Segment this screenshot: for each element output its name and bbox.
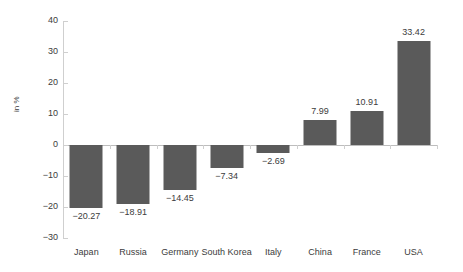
x-category-label: Germany xyxy=(161,247,198,257)
bar-group: −20.27Japan xyxy=(63,0,110,272)
y-axis-title: in % xyxy=(13,96,21,112)
bar-group: −14.45Germany xyxy=(157,0,204,272)
x-category-label: Italy xyxy=(265,247,282,257)
y-tick-label: −20 xyxy=(24,202,58,211)
bar-group: −2.69Italy xyxy=(250,0,297,272)
bar-value-label: −14.45 xyxy=(166,194,194,203)
y-tick-label: 40 xyxy=(24,16,58,25)
bar-value-label: 10.91 xyxy=(356,98,379,107)
bar-group: 33.42USA xyxy=(390,0,437,272)
bar-group: −7.34South Korea xyxy=(203,0,250,272)
y-tick-label: 20 xyxy=(24,78,58,87)
bar-value-label: −20.27 xyxy=(72,212,100,221)
bar xyxy=(70,145,103,208)
x-category-label: Japan xyxy=(74,247,99,257)
x-tick-mark xyxy=(203,145,204,149)
x-tick-mark xyxy=(297,145,298,149)
bar xyxy=(163,145,196,190)
bar xyxy=(397,41,430,145)
bar-value-label: −2.69 xyxy=(262,157,285,166)
x-tick-mark xyxy=(157,145,158,149)
bar-value-label: −7.34 xyxy=(215,172,238,181)
bar xyxy=(210,145,243,168)
x-tick-mark xyxy=(437,145,438,149)
y-tick-label: 0 xyxy=(24,140,58,149)
x-tick-mark xyxy=(110,145,111,149)
bar-group: −18.91Russia xyxy=(110,0,157,272)
x-tick-mark xyxy=(250,145,251,149)
x-category-label: China xyxy=(308,247,332,257)
x-category-label: Russia xyxy=(119,247,147,257)
bar-value-label: 7.99 xyxy=(311,107,329,116)
bar-value-label: −18.91 xyxy=(119,208,147,217)
y-tick-label: 30 xyxy=(24,47,58,56)
x-tick-mark xyxy=(63,145,64,149)
bar-value-label: 33.42 xyxy=(402,28,425,37)
x-category-label: South Korea xyxy=(202,247,252,257)
bar-chart: in % 403020100−10−20−30 −20.27Japan−18.9… xyxy=(0,0,463,272)
x-category-label: USA xyxy=(404,247,423,257)
bar-group: 10.91France xyxy=(344,0,391,272)
x-tick-mark xyxy=(390,145,391,149)
bar xyxy=(257,145,290,153)
y-tick-label: −30 xyxy=(24,233,58,242)
y-tick-label: −10 xyxy=(24,171,58,180)
x-tick-mark xyxy=(344,145,345,149)
plot-area: −20.27Japan−18.91Russia−14.45Germany−7.3… xyxy=(63,0,437,272)
bar-group: 7.99China xyxy=(297,0,344,272)
bar xyxy=(304,120,337,145)
x-category-label: France xyxy=(353,247,381,257)
y-tick-label: 10 xyxy=(24,109,58,118)
bar xyxy=(350,111,383,145)
bar xyxy=(117,145,150,204)
